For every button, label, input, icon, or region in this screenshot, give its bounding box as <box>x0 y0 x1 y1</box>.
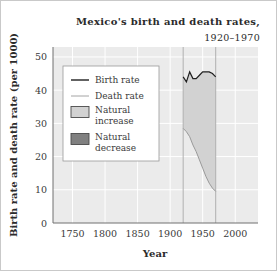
y-tick-label: 20 <box>35 151 47 162</box>
legend-marker-swatch <box>71 107 89 118</box>
y-tick-label: 30 <box>35 118 47 129</box>
y-tick-label: 50 <box>35 51 47 62</box>
chart-subtitle: 1920–1970 <box>204 32 260 43</box>
chart-svg: 01020304050 175018001850190019502000 Bir… <box>1 1 277 271</box>
chart-figure: 01020304050 175018001850190019502000 Bir… <box>1 1 277 271</box>
y-tick-label: 0 <box>41 218 47 229</box>
legend-label: Natural <box>95 132 130 142</box>
x-tick-label: 1800 <box>93 228 117 239</box>
x-tick-label: 1950 <box>191 228 215 239</box>
legend-label: Natural <box>95 105 130 115</box>
legend-marker-swatch <box>71 134 89 145</box>
legend-label: Death rate <box>95 91 144 101</box>
y-tick-labels: 01020304050 <box>35 51 47 228</box>
x-tick-labels: 175018001850190019502000 <box>60 228 247 239</box>
x-axis-title: Year <box>142 248 168 259</box>
legend-label: increase <box>95 116 134 126</box>
x-tick-label: 1900 <box>158 228 182 239</box>
y-tick-label: 10 <box>35 184 47 195</box>
x-tick-label: 2000 <box>223 228 247 239</box>
legend-label: decrease <box>95 143 136 153</box>
x-tick-label: 1850 <box>126 228 150 239</box>
chart-legend: Birth rateDeath rateNaturalincreaseNatur… <box>63 66 159 161</box>
y-axis-title: Birth rate and death rate (per 1000) <box>8 33 19 237</box>
figure-frame: 01020304050 175018001850190019502000 Bir… <box>0 0 277 271</box>
chart-title: Mexico's birth and death rates, <box>76 16 260 28</box>
x-tick-label: 1750 <box>60 228 84 239</box>
y-tick-label: 40 <box>35 85 47 96</box>
legend-label: Birth rate <box>95 75 140 85</box>
